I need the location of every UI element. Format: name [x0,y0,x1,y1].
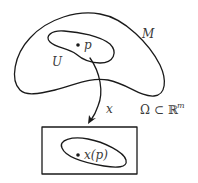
arrowhead-icon [88,115,96,124]
image-point-label: x(p) [84,148,108,162]
chart-map-label: x [106,102,113,116]
manifold-M-label: M [141,27,155,41]
chart-map-arrow [90,58,101,120]
omega-symbol: Ω [140,103,150,117]
point-p-dot [76,43,80,47]
image-point-dot [76,153,80,157]
point-p-label: p [84,38,92,52]
subset-symbol: ⊂ [154,103,164,117]
dimension-exponent: m [177,101,185,110]
chart-diagram: p U M x Ω ⊂ ℝ m x(p) [0,0,198,183]
open-set-U-label: U [52,55,63,69]
manifold-M-outline [15,13,165,96]
